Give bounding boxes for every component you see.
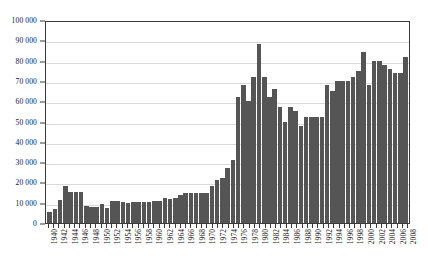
- x-axis-tick: [323, 224, 324, 228]
- x-axis-tick: [127, 224, 128, 228]
- bar: [53, 209, 58, 223]
- bar: [309, 117, 314, 223]
- x-axis-tick: [407, 224, 408, 228]
- bar: [299, 126, 304, 223]
- x-axis-tick: [328, 224, 329, 228]
- bar: [293, 111, 298, 223]
- bar: [183, 193, 188, 223]
- x-axis-tick: [90, 224, 91, 228]
- x-axis-tick: [312, 224, 313, 228]
- bar: [105, 208, 110, 223]
- x-axis-label: 1970: [209, 229, 216, 244]
- x-axis-tick: [280, 224, 281, 228]
- x-axis-tick: [354, 224, 355, 228]
- x-axis-tick: [365, 224, 366, 228]
- x-axis-label: 1992: [326, 229, 333, 244]
- x-axis-tick: [143, 224, 144, 228]
- x-axis-label: 1942: [61, 229, 68, 244]
- bar: [325, 85, 330, 223]
- bar: [163, 198, 168, 223]
- x-axis-label: 1982: [273, 229, 280, 244]
- x-axis-tick: [270, 224, 271, 228]
- x-axis-label: 1954: [125, 229, 132, 244]
- y-axis-label: 70 000: [16, 78, 37, 86]
- bar: [283, 122, 288, 224]
- x-axis: 1940194219441946194819501952195419561958…: [45, 229, 410, 271]
- x-axis-tick: [397, 224, 398, 228]
- x-axis-tick: [222, 224, 223, 228]
- bar: [84, 206, 89, 223]
- x-axis-label: 2004: [389, 229, 396, 244]
- bar: [47, 212, 52, 223]
- x-axis-label: 2002: [379, 229, 386, 244]
- x-axis-tick: [206, 224, 207, 228]
- bar: [89, 207, 94, 223]
- x-axis-label: 1958: [146, 229, 153, 244]
- x-axis-label: 1946: [82, 229, 89, 244]
- bar: [100, 204, 105, 223]
- x-axis-label: 1974: [231, 229, 238, 244]
- bar: [131, 202, 136, 223]
- bar: [121, 202, 126, 223]
- x-axis-label: 1962: [167, 229, 174, 244]
- x-axis-tick: [116, 224, 117, 228]
- bar: [340, 81, 345, 223]
- bar: [157, 201, 162, 223]
- bar: [241, 85, 246, 223]
- x-axis-tick: [106, 224, 107, 228]
- x-axis-label: 1966: [188, 229, 195, 244]
- x-axis-label: 1964: [178, 229, 185, 244]
- x-axis-tick: [74, 224, 75, 228]
- bar: [115, 201, 120, 223]
- x-axis-tick: [122, 224, 123, 228]
- bar: [382, 65, 387, 223]
- y-axis-label: 60 000: [16, 98, 37, 106]
- bar: [210, 186, 215, 223]
- x-axis-label: 1948: [93, 229, 100, 244]
- x-axis-tick: [381, 224, 382, 228]
- bar: [262, 77, 267, 223]
- x-axis-tick: [370, 224, 371, 228]
- y-axis-label: 10 000: [16, 200, 37, 208]
- bar-series: [46, 22, 409, 223]
- x-axis-tick: [307, 224, 308, 228]
- x-axis-tick: [317, 224, 318, 228]
- bar: [220, 178, 225, 223]
- x-axis-tick: [254, 224, 255, 228]
- bar: [335, 81, 340, 223]
- x-axis-tick: [339, 224, 340, 228]
- bar: [346, 81, 351, 223]
- bar: [403, 57, 408, 223]
- bar: [361, 52, 366, 223]
- x-axis-tick: [376, 224, 377, 228]
- x-axis-tick: [132, 224, 133, 228]
- bar: [79, 192, 84, 223]
- x-axis-tick: [201, 224, 202, 228]
- x-axis-tick: [48, 224, 49, 228]
- x-axis-label: 2008: [410, 229, 417, 244]
- x-axis-tick: [360, 224, 361, 228]
- bar: [147, 202, 152, 223]
- bar: [110, 201, 115, 223]
- x-axis-tick: [296, 224, 297, 228]
- x-axis-tick: [291, 224, 292, 228]
- x-axis-tick: [286, 224, 287, 228]
- x-axis-tick: [159, 224, 160, 228]
- x-axis-tick: [249, 224, 250, 228]
- x-axis-label: 1956: [135, 229, 142, 244]
- bar-chart: 100 00090 00080 00070 00060 00050 00040 …: [0, 0, 428, 271]
- x-axis-label: 2006: [400, 229, 407, 244]
- y-axis-label: 20 000: [16, 180, 37, 188]
- bar: [393, 73, 398, 223]
- bar: [178, 195, 183, 223]
- x-axis-tick: [238, 224, 239, 228]
- bar: [225, 168, 230, 223]
- x-axis-tick: [79, 224, 80, 228]
- bar: [215, 180, 220, 223]
- x-axis-tick: [233, 224, 234, 228]
- bar: [173, 198, 178, 223]
- bar: [356, 71, 361, 223]
- x-axis-tick: [212, 224, 213, 228]
- bar: [388, 69, 393, 223]
- x-axis-label: 2000: [368, 229, 375, 244]
